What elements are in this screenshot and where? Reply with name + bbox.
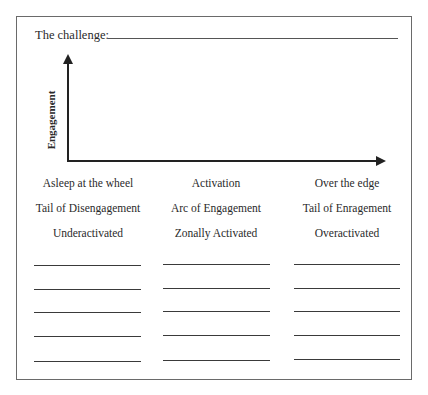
- x-axis: [67, 160, 377, 162]
- y-axis: [67, 62, 69, 162]
- column-3-write-line[interactable]: [294, 335, 400, 336]
- x-axis-arrow-icon: [376, 156, 386, 166]
- challenge-label: The challenge:: [35, 28, 109, 43]
- column-2-write-line[interactable]: [163, 311, 270, 312]
- column-state-2: Zonally Activated: [151, 227, 281, 239]
- column-1-write-line[interactable]: [34, 265, 141, 266]
- column-state-1: Underactivated: [23, 227, 153, 239]
- column-2-write-line[interactable]: [163, 360, 270, 361]
- column-1-write-line[interactable]: [34, 312, 141, 313]
- column-1-write-line[interactable]: [34, 361, 141, 362]
- column-1-write-line[interactable]: [34, 336, 141, 337]
- column-heading-1: Asleep at the wheel: [23, 177, 153, 189]
- column-3-write-line[interactable]: [294, 359, 400, 360]
- column-2-write-line[interactable]: [163, 335, 270, 336]
- column-3-write-line[interactable]: [294, 264, 400, 265]
- y-axis-label: Engagement: [45, 91, 57, 150]
- column-2-write-line[interactable]: [163, 288, 270, 289]
- column-heading-2: Activation: [151, 177, 281, 189]
- column-subheading-3: Tail of Enragement: [282, 202, 412, 214]
- column-subheading-1: Tail of Disengagement: [23, 202, 153, 214]
- column-state-3: Overactivated: [282, 227, 412, 239]
- column-2-write-line[interactable]: [163, 264, 270, 265]
- worksheet-frame: [16, 16, 412, 380]
- column-1-write-line[interactable]: [34, 289, 141, 290]
- challenge-input-line[interactable]: [108, 38, 398, 39]
- column-heading-3: Over the edge: [282, 177, 412, 189]
- column-3-write-line[interactable]: [294, 311, 400, 312]
- column-subheading-2: Arc of Engagement: [151, 202, 281, 214]
- column-3-write-line[interactable]: [294, 288, 400, 289]
